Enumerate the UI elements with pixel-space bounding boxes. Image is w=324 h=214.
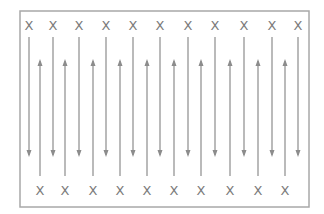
up-arrow <box>145 59 150 176</box>
x-marker-bottom: X <box>170 183 179 198</box>
up-arrows <box>38 59 288 176</box>
bottom-x-markers: XXXXXXXXXX <box>36 183 290 198</box>
up-arrow <box>38 59 43 176</box>
up-arrow <box>91 59 96 176</box>
scan-pattern-diagram: XXXXXXXXXXX XXXXXXXXXX <box>0 0 324 214</box>
x-marker-top: X <box>102 18 111 33</box>
x-marker-bottom: X <box>226 183 235 198</box>
up-arrow <box>199 59 204 176</box>
up-arrow <box>228 59 233 176</box>
down-arrow <box>242 37 247 157</box>
x-marker-top: X <box>184 18 193 33</box>
x-marker-bottom: X <box>254 183 263 198</box>
up-arrow <box>256 59 261 176</box>
up-arrow <box>63 59 68 176</box>
down-arrow <box>51 37 56 157</box>
down-arrow <box>77 37 82 157</box>
down-arrows <box>27 37 301 157</box>
up-arrow <box>172 59 177 176</box>
down-arrow <box>158 37 163 157</box>
x-marker-bottom: X <box>61 183 70 198</box>
x-marker-top: X <box>211 18 220 33</box>
up-arrow <box>283 59 288 176</box>
x-marker-top: X <box>49 18 58 33</box>
down-arrow <box>270 37 275 157</box>
down-arrow <box>296 37 301 157</box>
x-marker-bottom: X <box>281 183 290 198</box>
x-marker-top: X <box>25 18 34 33</box>
down-arrow <box>27 37 32 157</box>
down-arrow <box>213 37 218 157</box>
x-marker-bottom: X <box>36 183 45 198</box>
up-arrow <box>118 59 123 176</box>
x-marker-bottom: X <box>116 183 125 198</box>
x-marker-bottom: X <box>143 183 152 198</box>
x-marker-bottom: X <box>197 183 206 198</box>
x-marker-top: X <box>294 18 303 33</box>
down-arrow <box>104 37 109 157</box>
x-marker-top: X <box>156 18 165 33</box>
x-marker-top: X <box>268 18 277 33</box>
x-marker-top: X <box>75 18 84 33</box>
x-marker-top: X <box>240 18 249 33</box>
down-arrow <box>131 37 136 157</box>
down-arrow <box>186 37 191 157</box>
x-marker-bottom: X <box>89 183 98 198</box>
top-x-markers: XXXXXXXXXXX <box>25 18 303 33</box>
x-marker-top: X <box>129 18 138 33</box>
diagram-frame <box>20 11 309 207</box>
